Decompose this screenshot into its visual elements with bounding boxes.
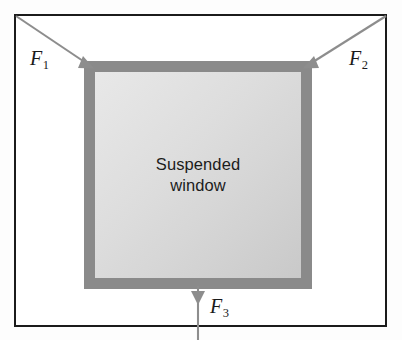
force-label-f1: F1 — [30, 48, 48, 68]
suspended-window-label: Suspended window — [156, 154, 240, 196]
force-label-f3-subscript: 3 — [223, 306, 229, 320]
force-label-f3-symbol: F — [210, 295, 222, 317]
force-label-f3: F3 — [210, 296, 228, 316]
force-label-f1-symbol: F — [30, 47, 42, 69]
suspended-window: Suspended window — [84, 61, 312, 289]
window-pane: Suspended window — [95, 72, 301, 278]
figure-canvas: Suspended window F1 F2 F3 — [0, 0, 402, 340]
force-label-f2: F2 — [349, 48, 367, 68]
force-label-f2-symbol: F — [349, 47, 361, 69]
force-label-f2-subscript: 2 — [362, 58, 368, 72]
force-label-f1-subscript: 1 — [43, 58, 49, 72]
